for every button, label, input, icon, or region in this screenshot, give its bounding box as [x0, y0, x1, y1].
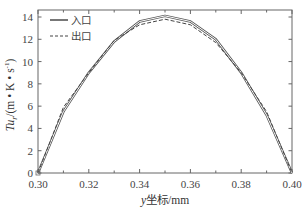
- x-tick-label: 0.32: [79, 178, 98, 190]
- axis-ticks: 0.300.320.340.360.380.4002468101214: [22, 10, 302, 190]
- y-tick-label: 0: [28, 167, 34, 179]
- y-tick-label: 14: [22, 11, 34, 23]
- legend: 入口 出口: [50, 14, 91, 42]
- x-axis-title: y坐标/mm: [140, 194, 189, 207]
- x-tick-label: 0.38: [232, 178, 252, 190]
- y-axis-title: Tur/(m • K • s-1): [3, 59, 19, 132]
- x-tick-label: 0.40: [282, 178, 302, 190]
- line-chart: 0.300.320.340.360.380.4002468101214 入口 出…: [0, 0, 303, 215]
- y-tick-label: 8: [28, 78, 34, 90]
- y-tick-label: 12: [22, 33, 33, 45]
- x-tick-label: 0.30: [28, 178, 48, 190]
- y-tick-label: 10: [22, 56, 34, 68]
- y-tick-label: 6: [28, 100, 34, 112]
- x-tick-label: 0.36: [181, 178, 201, 190]
- legend-label-outlet: 出口: [71, 30, 91, 42]
- y-tick-label: 4: [28, 122, 34, 134]
- y-tick-label: 2: [28, 145, 34, 157]
- legend-label-inlet: 入口: [71, 14, 91, 26]
- x-tick-label: 0.34: [130, 178, 150, 190]
